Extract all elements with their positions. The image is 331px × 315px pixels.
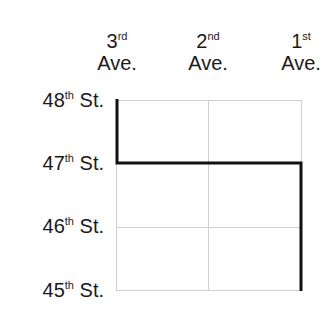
grid-lines xyxy=(116,100,302,291)
street-grid xyxy=(0,0,331,315)
